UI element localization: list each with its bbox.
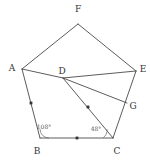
segment-FE — [78, 24, 136, 71]
polygon-edges — [22, 24, 136, 138]
angle-measure-C: 48° — [91, 125, 102, 132]
angle-labels: 108°48° — [37, 123, 102, 132]
vertex-label-G: G — [129, 101, 136, 111]
tick-AB-icon — [30, 102, 33, 105]
arc-angle-B — [40, 129, 49, 138]
tick-DC-icon — [87, 106, 90, 109]
segment-AD — [22, 69, 63, 78]
vertex-labels: ABCDEFG — [8, 4, 147, 156]
geometry-canvas: 108°48° ABCDEFG — [0, 0, 150, 162]
segment-AF — [22, 24, 78, 69]
vertex-label-B: B — [34, 146, 41, 156]
vertex-label-C: C — [114, 146, 121, 156]
segment-DE — [63, 71, 136, 78]
segment-DG — [63, 78, 127, 103]
tick-BC-icon — [76, 137, 79, 140]
vertex-label-E: E — [140, 64, 147, 74]
vertex-label-D: D — [58, 66, 65, 76]
angle-measure-B: 108° — [37, 123, 51, 130]
vertex-label-F: F — [75, 4, 81, 14]
geometry-figure: 108°48° ABCDEFG — [0, 0, 150, 162]
vertex-label-A: A — [8, 63, 16, 73]
